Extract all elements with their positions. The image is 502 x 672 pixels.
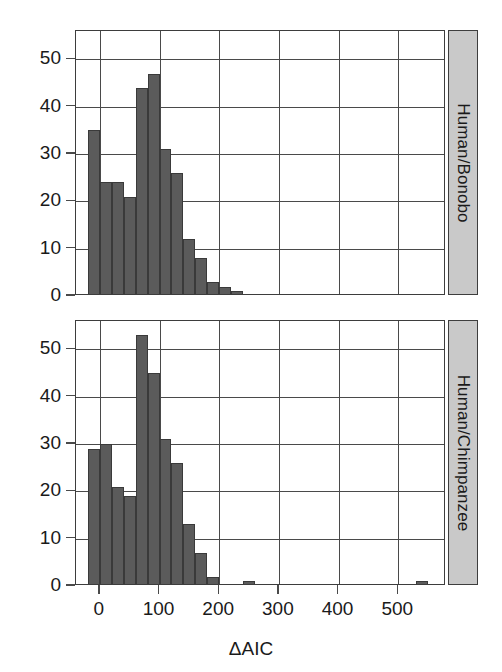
histogram-bar <box>160 149 172 295</box>
histogram-bar <box>124 197 136 295</box>
histogram-bar <box>171 463 183 585</box>
histogram-bar <box>100 182 112 295</box>
y-tick-mark <box>66 584 75 585</box>
x-tick-label: 500 <box>381 598 413 620</box>
histogram-bar <box>231 291 243 295</box>
x-tick-label: 200 <box>202 598 234 620</box>
y-tick-label: 20 <box>10 189 61 211</box>
gridline-horizontal <box>76 59 444 60</box>
y-tick-label: 40 <box>10 385 61 407</box>
x-tick-mark <box>337 585 338 594</box>
histogram-bar <box>207 282 219 295</box>
gridline-vertical <box>279 321 280 584</box>
histogram-bar <box>183 239 195 295</box>
x-tick-mark <box>158 585 159 594</box>
y-tick-mark <box>66 537 75 538</box>
y-tick-label: 20 <box>10 479 61 501</box>
x-tick-label: 100 <box>143 598 175 620</box>
strip-label-human-chimpanzee: Human/Chimpanzee <box>448 320 478 585</box>
histogram-bar <box>112 487 124 585</box>
gridline-vertical <box>398 321 399 584</box>
y-tick-mark <box>66 152 75 153</box>
histogram-bar <box>219 287 231 295</box>
y-tick-label: 50 <box>10 337 61 359</box>
y-tick-mark <box>66 105 75 106</box>
y-tick-mark <box>66 490 75 491</box>
histogram-bar <box>88 449 100 585</box>
gridline-vertical <box>339 321 340 584</box>
gridline-horizontal <box>76 349 444 350</box>
histogram-bar <box>88 130 100 295</box>
x-tick-label: 0 <box>94 598 105 620</box>
y-tick-mark <box>66 247 75 248</box>
gridline-horizontal <box>76 154 444 155</box>
plot-area-human-bonobo <box>75 30 445 295</box>
strip-label-text: Human/Chimpanzee <box>453 374 473 531</box>
histogram-bar <box>195 553 207 585</box>
strip-label-human-bonobo: Human/Bonobo <box>448 30 478 295</box>
x-tick-label: 300 <box>262 598 294 620</box>
y-tick-label: 0 <box>10 284 61 306</box>
gridline-vertical <box>219 321 220 584</box>
histogram-bar <box>100 444 112 585</box>
plot-area-human-chimpanzee <box>75 320 445 585</box>
figure-histogram-delta-aic: Human/Bonobo 01020304050 Human/Chimpanze… <box>0 0 502 672</box>
x-tick-mark <box>397 585 398 594</box>
gridline-horizontal <box>76 491 444 492</box>
histogram-bar <box>207 577 219 585</box>
y-tick-label: 30 <box>10 142 61 164</box>
y-tick-mark <box>66 442 75 443</box>
y-tick-mark <box>66 294 75 295</box>
strip-label-text: Human/Bonobo <box>453 103 473 222</box>
x-tick-mark <box>98 585 99 594</box>
y-tick-label: 0 <box>10 574 61 596</box>
x-tick-label: 400 <box>322 598 354 620</box>
y-tick-label: 10 <box>10 237 61 259</box>
panel-human-bonobo: Human/Bonobo 01020304050 <box>0 0 502 310</box>
histogram-bar <box>136 88 148 295</box>
histogram-bar <box>124 496 136 585</box>
x-tick-mark <box>218 585 219 594</box>
histogram-bar <box>195 258 207 295</box>
gridline-horizontal <box>76 107 444 108</box>
gridline-vertical <box>279 31 280 294</box>
histogram-bar <box>148 74 160 295</box>
y-tick-mark <box>66 395 75 396</box>
histogram-bar <box>160 439 172 585</box>
gridline-horizontal <box>76 444 444 445</box>
x-tick-mark <box>277 585 278 594</box>
y-tick-label: 10 <box>10 527 61 549</box>
histogram-bar <box>183 524 195 585</box>
histogram-bar <box>416 581 428 585</box>
x-axis-title: ΔAIC <box>0 638 502 660</box>
gridline-vertical <box>339 31 340 294</box>
histogram-bar <box>148 373 160 585</box>
histogram-bar <box>112 182 124 295</box>
y-tick-mark <box>66 200 75 201</box>
y-tick-label: 50 <box>10 47 61 69</box>
histogram-bar <box>243 581 255 585</box>
gridline-horizontal <box>76 397 444 398</box>
panel-human-chimpanzee: Human/Chimpanzee 01020304050 01002003004… <box>0 310 502 672</box>
gridline-vertical <box>219 31 220 294</box>
y-tick-label: 40 <box>10 95 61 117</box>
histogram-bar <box>171 173 183 295</box>
y-tick-label: 30 <box>10 432 61 454</box>
histogram-bar <box>136 335 148 585</box>
y-tick-mark <box>66 58 75 59</box>
y-tick-mark <box>66 348 75 349</box>
gridline-vertical <box>398 31 399 294</box>
